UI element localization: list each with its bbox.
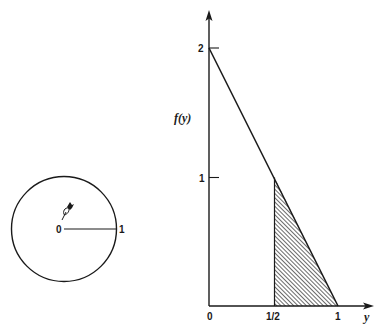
dart-icon bbox=[62, 202, 74, 220]
density-line bbox=[209, 48, 338, 306]
dartboard: 0 1 bbox=[12, 177, 126, 282]
x-tick-label-0: 0 bbox=[207, 311, 213, 322]
figure-canvas: 0 1 2 1 f(y) y 0 bbox=[0, 0, 383, 329]
y-tick-label-1: 1 bbox=[199, 173, 205, 184]
density-plot: 2 1 f(y) y 0 1/2 1 bbox=[174, 10, 374, 324]
y-axis-label: f(y) bbox=[174, 111, 191, 125]
center-label: 0 bbox=[56, 224, 62, 235]
radius-label: 1 bbox=[119, 224, 125, 235]
y-tick-label-2: 2 bbox=[198, 43, 204, 54]
x-tick-label-half: 1/2 bbox=[266, 311, 280, 322]
x-axis-label: y bbox=[362, 310, 370, 324]
x-tick-label-1: 1 bbox=[335, 311, 341, 322]
